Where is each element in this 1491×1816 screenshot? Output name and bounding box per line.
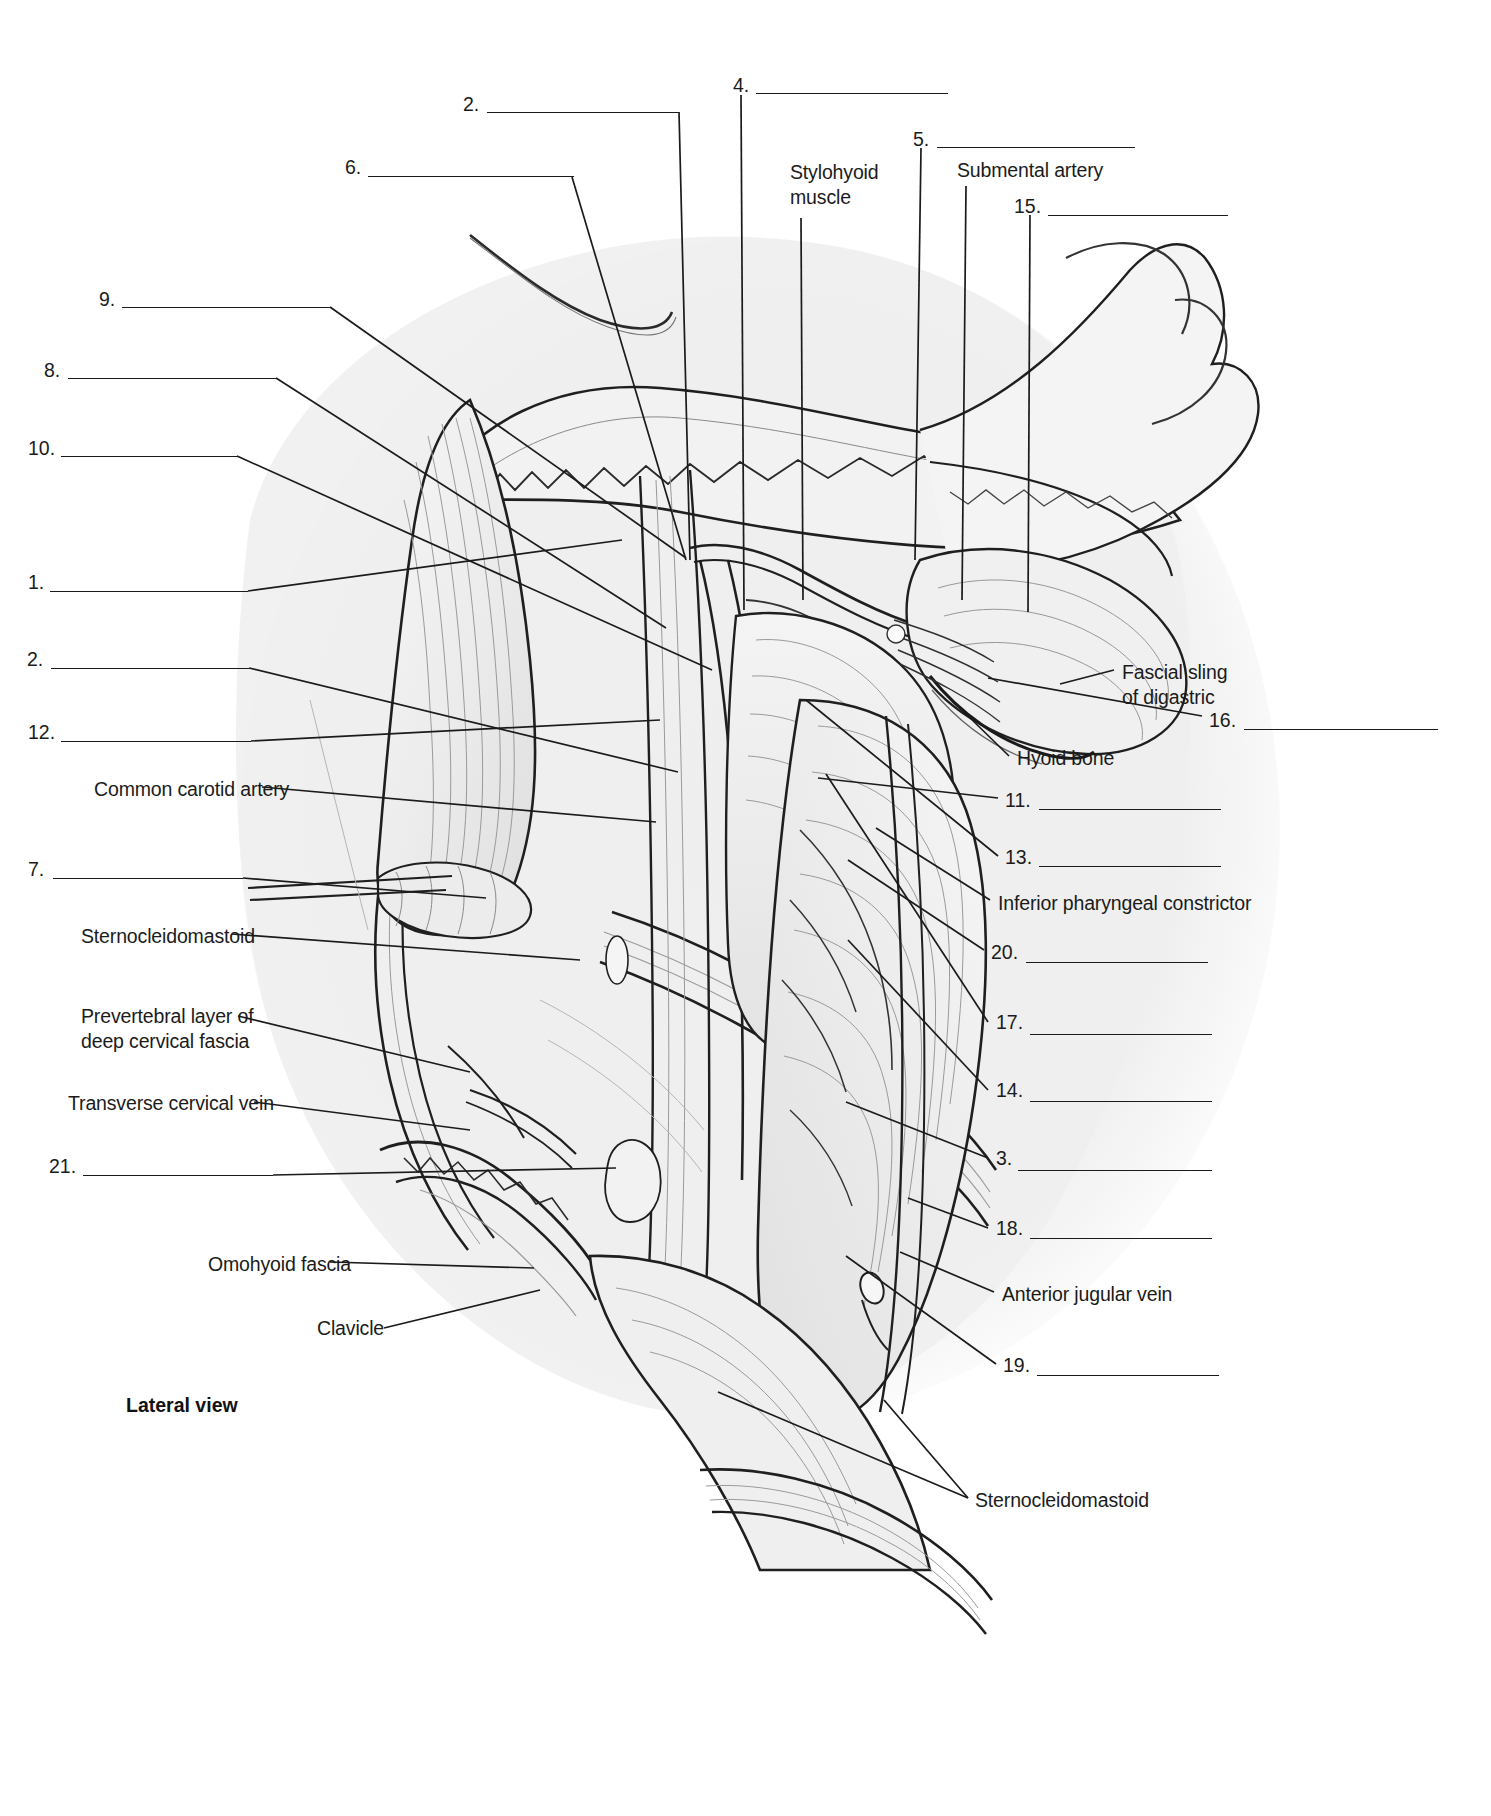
blank-number-1: 1. [28,570,44,594]
answer-blank-14[interactable] [1030,1101,1212,1102]
answer-blank-11[interactable] [1039,809,1221,810]
anatomy-illustration [0,0,1491,1816]
answer-blank-3[interactable] [1018,1170,1212,1171]
leader-omohyoid [330,1262,534,1268]
answer-blank-16[interactable] [1244,729,1438,730]
label-hyoid: Hyoid bone [1017,746,1114,771]
blank-number-20: 20. [991,940,1018,964]
label-transcerv: Transverse cervical vein [68,1091,274,1116]
blank-number-3: 3. [996,1146,1012,1170]
view-caption: Lateral view [126,1394,238,1417]
answer-blank-15[interactable] [1048,215,1228,216]
leader-anterior-jugular [900,1252,994,1292]
label-stylohyoid: Stylohyoid muscle [790,160,878,210]
leader-21 [273,1168,616,1175]
blank-number-9: 9. [99,287,115,311]
blank-number-15: 15. [1014,194,1041,218]
leader-scm-left [232,934,580,960]
label-submental: Submental artery [957,158,1103,183]
leader-common-carotid [262,787,656,822]
leader-12 [251,720,660,741]
leader-13 [806,700,998,856]
answer-blank-21[interactable] [83,1175,273,1176]
leader-3 [846,1102,988,1158]
blank-number-21: 21. [49,1154,76,1178]
blank-number-11: 11. [1005,788,1031,812]
leader-14 [848,940,988,1090]
answer-blank-2[interactable] [51,668,249,669]
leader-4 [741,95,744,610]
blank-number-7: 7. [28,857,44,881]
answer-blank-7[interactable] [53,878,243,879]
label-omohyoid: Omohyoid fascia [208,1252,351,1277]
blank-number-17: 17. [996,1010,1023,1034]
leader-scm-bottom-b [884,1400,968,1498]
leader-submental [962,186,966,600]
answer-blank-13[interactable] [1039,866,1221,867]
label-antjugular: Anterior jugular vein [1002,1282,1172,1307]
answer-blank-20[interactable] [1026,962,1208,963]
leader-18 [908,1198,988,1228]
leader-lines [0,0,1491,1816]
answer-blank-10[interactable] [61,456,237,457]
worksheet-page: 2.4.6.5.15.9.8.10.1.2.12.7.21.16.11.13.2… [0,0,1491,1816]
leader-clavicle [384,1290,540,1328]
answer-blank-6[interactable] [368,176,574,177]
blank-number-19: 19. [1003,1353,1030,1377]
answer-blank-8[interactable] [68,378,276,379]
leader-6 [572,177,686,560]
leader-9 [330,307,686,558]
leader-stylohyoid [801,218,803,600]
leader-15 [1028,215,1030,612]
blank-number-12: 12. [28,720,55,744]
leader-1 [248,540,622,591]
answer-blank-19[interactable] [1037,1375,1219,1376]
leader-scm-bottom-a [718,1392,968,1498]
blank-number-16: 16. [1209,708,1236,732]
blank-number-8: 8. [44,358,60,382]
blank-number-2: 2. [27,647,43,671]
label-scmbottom: Sternocleidomastoid [975,1488,1149,1513]
leader-11 [818,778,998,798]
answer-blank-17[interactable] [1030,1034,1212,1035]
answer-blank-12[interactable] [61,741,251,742]
answer-blank-9[interactable] [122,307,330,308]
blank-number-10: 10. [28,436,55,460]
leader-10 [237,456,712,670]
answer-blank-18[interactable] [1030,1238,1212,1239]
leader-17 [826,774,988,1022]
blank-number-5: 5. [913,127,929,151]
label-clavicle: Clavicle [317,1316,384,1341]
leader-8 [276,378,666,628]
blank-number-13: 13. [1005,845,1032,869]
leader-inf-constrictor [876,828,990,900]
leader-7 [243,878,486,898]
label-commoncar: Common carotid artery [94,777,289,802]
label-scmleft: Sternocleidomastoid [81,924,255,949]
leader-transverse-cervical [254,1102,470,1130]
answer-blank-5[interactable] [937,147,1135,148]
leader-2 [249,668,678,772]
leader-19 [846,1256,996,1364]
leader-prevertebral [238,1016,470,1072]
blank-number-14: 14. [996,1078,1023,1102]
answer-blank-1[interactable] [50,591,248,592]
label-infpharyn: Inferior pharyngeal constrictor [998,891,1251,916]
leader-fascial-sling [1060,670,1114,684]
answer-blank-4[interactable] [756,93,948,94]
leader-5 [915,148,921,560]
label-prevertebral: Prevertebral layer of deep cervical fasc… [81,1004,253,1054]
leader-2-top [679,112,690,560]
blank-number-6: 6. [345,155,361,179]
leader-20 [848,860,984,950]
answer-blank-2[interactable] [487,112,679,113]
leader-hyoid [962,710,1009,756]
blank-number-2: 2. [463,92,479,116]
blank-number-4: 4. [733,73,749,97]
blank-number-18: 18. [996,1216,1023,1240]
label-fascialsling: Fascial sling of digastric [1122,660,1227,710]
